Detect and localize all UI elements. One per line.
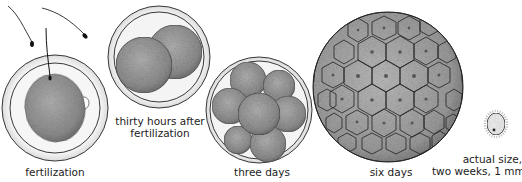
embryo-dot xyxy=(493,129,496,132)
sperm-head xyxy=(82,32,89,39)
sperm-head-entering xyxy=(48,75,51,80)
label-actual-size: actual size, two weeks, 1 mm xyxy=(432,153,522,177)
label-thirty-hours: thirty hours after fertilization xyxy=(115,115,205,139)
actual-size-stage xyxy=(485,111,507,137)
blastomere xyxy=(116,37,172,93)
embryo-development-figure: fertilization thirty hours after fertili… xyxy=(0,0,522,182)
blastomere xyxy=(238,93,280,135)
fertilization-stage xyxy=(2,6,108,161)
morula-stage xyxy=(206,57,312,163)
embryo-actual-size xyxy=(487,113,505,135)
label-six-days: six days xyxy=(346,166,436,178)
label-fertilization: fertilization xyxy=(10,166,100,178)
sperm-tail xyxy=(8,6,32,42)
label-three-days: three days xyxy=(217,166,307,178)
sperm-tail xyxy=(42,8,84,34)
sperm-head xyxy=(30,41,34,47)
two-cell-stage xyxy=(108,6,210,108)
blastocyst-stage xyxy=(313,12,463,162)
